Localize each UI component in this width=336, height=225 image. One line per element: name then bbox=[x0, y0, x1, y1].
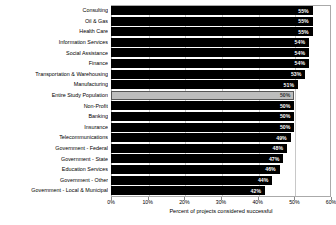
category-label: Information Services bbox=[0, 39, 108, 45]
category-label: Insurance bbox=[0, 124, 108, 130]
category-label: Oil & Gas bbox=[0, 18, 108, 24]
bar: 50% bbox=[111, 112, 294, 121]
bar-track: 49% bbox=[111, 133, 331, 142]
bar-value-label: 54% bbox=[295, 50, 305, 56]
bar-row: Oil & Gas55% bbox=[0, 16, 335, 27]
bar-track: 47% bbox=[111, 154, 331, 163]
bar-value-label: 55% bbox=[298, 8, 308, 14]
bar-track: 54% bbox=[111, 48, 331, 57]
bar-row: Government - State47% bbox=[0, 153, 335, 164]
bar-row: Manufacturing51% bbox=[0, 79, 335, 90]
bar-track: 55% bbox=[111, 6, 331, 15]
bar: 48% bbox=[111, 144, 287, 153]
bar-track: 44% bbox=[111, 176, 331, 185]
bar-value-label: 54% bbox=[295, 60, 305, 66]
bar-track: 46% bbox=[111, 165, 331, 174]
bar-track: 42% bbox=[111, 186, 331, 195]
bar-row: Consulting55% bbox=[0, 5, 335, 16]
bar-track: 55% bbox=[111, 17, 331, 26]
bar-track: 50% bbox=[111, 112, 331, 121]
bar-row: Non-Profit50% bbox=[0, 100, 335, 111]
axis-tick-label: 30% bbox=[216, 199, 226, 205]
bar-row: Government - Local & Municipal42% bbox=[0, 185, 335, 196]
axis-tick-label: 0% bbox=[107, 199, 115, 205]
bar-row: Transportation & Warehousing53% bbox=[0, 69, 335, 80]
x-axis-title: Percent of projects considered successfu… bbox=[111, 208, 331, 215]
bar-value-label: 55% bbox=[298, 29, 308, 35]
bar-row: Social Assistance54% bbox=[0, 47, 335, 58]
category-label: Government - Local & Municipal bbox=[0, 187, 108, 193]
category-label: Government - Other bbox=[0, 177, 108, 183]
axis-tick-label: 40% bbox=[252, 199, 262, 205]
category-label: Education Services bbox=[0, 166, 108, 172]
bar-value-label: 42% bbox=[251, 188, 261, 194]
bar-value-label: 46% bbox=[265, 166, 275, 172]
bar: 50% bbox=[111, 91, 294, 100]
bar-value-label: 44% bbox=[258, 177, 268, 183]
bar-rows: Consulting55%Oil & Gas55%Health Care55%I… bbox=[0, 5, 335, 197]
bar: 49% bbox=[111, 133, 291, 142]
axis-tick-label: 60% bbox=[326, 199, 336, 205]
bar: 53% bbox=[111, 70, 305, 79]
bar-row: Insurance50% bbox=[0, 122, 335, 133]
bar-value-label: 55% bbox=[298, 18, 308, 24]
category-label: Government - Federal bbox=[0, 145, 108, 151]
bar-value-label: 51% bbox=[284, 82, 294, 88]
category-label: Finance bbox=[0, 60, 108, 66]
bar-row: Telecommunications49% bbox=[0, 132, 335, 143]
bar: 55% bbox=[111, 6, 313, 15]
bar-value-label: 50% bbox=[280, 113, 290, 119]
bar-track: 54% bbox=[111, 38, 331, 47]
category-label: Manufacturing bbox=[0, 81, 108, 87]
category-label: Consulting bbox=[0, 7, 108, 13]
bar-track: 48% bbox=[111, 144, 331, 153]
bar: 54% bbox=[111, 38, 309, 47]
bar-value-label: 48% bbox=[273, 145, 283, 151]
bar-value-label: 53% bbox=[291, 71, 301, 77]
category-label: Banking bbox=[0, 113, 108, 119]
category-label: Non-Profit bbox=[0, 103, 108, 109]
bar-row: Government - Other44% bbox=[0, 175, 335, 186]
bar-row: Government - Federal48% bbox=[0, 143, 335, 154]
axis-tick-label: 20% bbox=[179, 199, 189, 205]
category-label: Transportation & Warehousing bbox=[0, 71, 108, 77]
bar-row: Banking50% bbox=[0, 111, 335, 122]
bar-value-label: 47% bbox=[269, 156, 279, 162]
bar-value-label: 50% bbox=[280, 92, 290, 98]
category-label: Social Assistance bbox=[0, 50, 108, 56]
bar-track: 50% bbox=[111, 123, 331, 132]
bar: 47% bbox=[111, 154, 283, 163]
bar: 50% bbox=[111, 123, 294, 132]
bar-value-label: 50% bbox=[280, 103, 290, 109]
bar-value-label: 49% bbox=[276, 135, 286, 141]
bar: 44% bbox=[111, 176, 272, 185]
bar-track: 54% bbox=[111, 59, 331, 68]
bar-row: Finance54% bbox=[0, 58, 335, 69]
bar: 55% bbox=[111, 17, 313, 26]
bar-row: Education Services46% bbox=[0, 164, 335, 175]
category-label: Government - State bbox=[0, 156, 108, 162]
bar-track: 50% bbox=[111, 91, 331, 100]
bar: 46% bbox=[111, 165, 280, 174]
category-label: Telecommunications bbox=[0, 134, 108, 140]
bar: 54% bbox=[111, 59, 309, 68]
bar: 55% bbox=[111, 27, 313, 36]
bar-track: 51% bbox=[111, 80, 331, 89]
bar-row: Entire Study Population50% bbox=[0, 90, 335, 101]
bar: 50% bbox=[111, 101, 294, 110]
axis-tick-label: 50% bbox=[289, 199, 299, 205]
bar-row: Health Care55% bbox=[0, 26, 335, 37]
bar-track: 53% bbox=[111, 70, 331, 79]
bar-track: 50% bbox=[111, 101, 331, 110]
bar-value-label: 50% bbox=[280, 124, 290, 130]
bar: 54% bbox=[111, 48, 309, 57]
bar-value-label: 54% bbox=[295, 39, 305, 45]
bar-track: 55% bbox=[111, 27, 331, 36]
bar-row: Information Services54% bbox=[0, 37, 335, 48]
axis-tick-label: 10% bbox=[142, 199, 152, 205]
category-label: Entire Study Population bbox=[0, 92, 108, 98]
bar: 51% bbox=[111, 80, 298, 89]
category-label: Health Care bbox=[0, 28, 108, 34]
x-axis: 0%10%20%30%40%50%60% bbox=[111, 197, 331, 207]
